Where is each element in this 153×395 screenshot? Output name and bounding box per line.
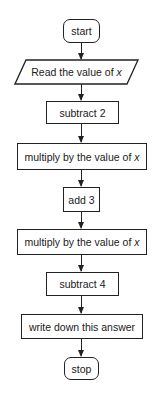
arrow-mul2-to-sub4: [81, 255, 82, 271]
write-answer-label: write down this answer: [29, 321, 135, 333]
stop-node: stop: [64, 357, 99, 380]
subtract-2-node: subtract 2: [46, 101, 119, 124]
arrow-sub4-to-write: [81, 296, 82, 313]
multiply-2-label: multiply by the value of: [25, 236, 135, 248]
write-answer-node: write down this answer: [21, 314, 143, 339]
multiply-1-label: multiply by the value of: [25, 151, 135, 163]
read-input-node: Read the value of x: [14, 59, 139, 84]
arrow-sub2-to-mul1: [81, 124, 82, 142]
start-node: start: [63, 19, 100, 43]
multiply-2-variable: x: [134, 236, 139, 248]
subtract-2-label: subtract 2: [59, 107, 105, 119]
arrow-start-to-read: [81, 43, 82, 59]
multiply-1-node: multiply by the value of x: [17, 143, 147, 170]
multiply-1-variable: x: [134, 151, 139, 163]
read-label: Read the value of: [31, 66, 116, 78]
arrow-mul1-to-add3: [81, 170, 82, 186]
stop-label: stop: [72, 363, 92, 375]
arrow-read-to-sub2: [81, 84, 82, 100]
subtract-4-label: subtract 4: [59, 278, 105, 290]
start-label: start: [71, 25, 91, 37]
add-3-label: add 3: [68, 194, 94, 206]
read-variable: x: [116, 66, 121, 78]
subtract-4-node: subtract 4: [46, 272, 119, 296]
arrow-write-to-stop: [81, 339, 82, 356]
arrow-add3-to-mul2: [81, 212, 82, 228]
multiply-2-node: multiply by the value of x: [17, 229, 147, 255]
add-3-node: add 3: [63, 187, 100, 212]
